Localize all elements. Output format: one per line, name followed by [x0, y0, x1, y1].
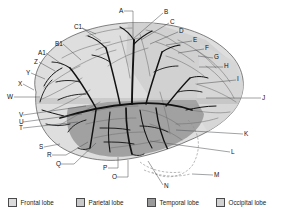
label-Q: Q [56, 160, 61, 168]
label-N: N [164, 182, 169, 189]
label-W: W [7, 93, 14, 100]
label-B: B [164, 8, 168, 15]
label-H: H [224, 62, 229, 69]
frontal-lobe-swatch [8, 198, 17, 207]
legend-item-0[interactable]: Frontal lobe [8, 198, 54, 207]
legend-label-1: Parietal lobe [89, 198, 124, 207]
legend-label-0: Frontal lobe [21, 198, 54, 207]
label-C: C [170, 18, 175, 25]
occipital-lobe-region [196, 44, 246, 136]
temporal-lobe-region [67, 100, 204, 157]
leader-line-S [44, 144, 60, 147]
leader-line-O [117, 160, 128, 177]
label-U: U [19, 118, 24, 125]
parietal-lobe-swatch [76, 198, 85, 207]
leader-line-X [23, 84, 34, 90]
label-Y: Y [26, 69, 31, 76]
label-G: G [214, 53, 219, 60]
lobe-fill-group [30, 20, 250, 160]
brain-diagram: ABCDEFGHIJKLMNOPQRSTUVWXYZA1B1C1 [0, 0, 284, 192]
label-O: O [112, 173, 117, 180]
label-L: L [231, 148, 235, 155]
label-A: A [119, 7, 124, 14]
label-M: M [214, 171, 219, 178]
label-C1: C1 [74, 23, 83, 30]
legend-label-3: Occipital lobe [229, 198, 267, 207]
label-V: V [19, 111, 24, 118]
brain-lobes-figure: ABCDEFGHIJKLMNOPQRSTUVWXYZA1B1C1 Frontal… [0, 0, 284, 222]
label-Z: Z [34, 58, 38, 65]
label-B1: B1 [55, 40, 63, 47]
legend-item-3[interactable]: Occipital lobe [216, 198, 266, 207]
brainstem-outline [140, 162, 182, 173]
label-X: X [18, 80, 23, 87]
label-P: P [103, 164, 107, 171]
label-I: I [237, 75, 239, 82]
label-D: D [179, 27, 184, 34]
lobe-legend: Frontal lobeParietal lobeTemporal lobeOc… [0, 192, 284, 222]
leader-line-M [192, 174, 213, 175]
occipital-lobe-swatch [216, 198, 225, 207]
label-E: E [193, 36, 197, 43]
label-T: T [19, 124, 23, 131]
label-K: K [244, 130, 249, 137]
legend-item-2[interactable]: Temporal lobe [147, 198, 199, 207]
label-A1: A1 [38, 49, 46, 56]
label-S: S [39, 143, 43, 150]
legend-item-1[interactable]: Parietal lobe [76, 198, 124, 207]
legend-label-2: Temporal lobe [160, 198, 200, 207]
label-J: J [262, 94, 265, 101]
leader-line-N [148, 161, 163, 185]
label-R: R [47, 151, 52, 158]
label-F: F [205, 44, 209, 51]
temporal-lobe-swatch [147, 198, 156, 207]
